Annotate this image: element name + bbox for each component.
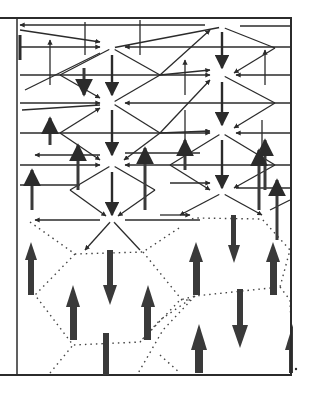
domain-arrow-down [232, 289, 248, 348]
domain-arrow-down [228, 215, 240, 263]
corner-dot [295, 368, 297, 370]
lattice-up-arrows [32, 68, 277, 240]
margin [293, 0, 320, 397]
field-lines [20, 20, 290, 250]
domain-arrows [25, 215, 301, 375]
domain-arrow-up [25, 242, 37, 295]
flux-lattice-diagram [0, 0, 320, 397]
domain-arrow-down [103, 250, 117, 305]
domain-arrow-up [191, 324, 207, 373]
domain-arrow-up [189, 242, 203, 295]
hub-nodes [109, 24, 225, 223]
domain-arrow-up [141, 285, 155, 340]
domain-arrow-up [266, 242, 280, 295]
domain-arrow-up [66, 285, 80, 340]
domain-arrow-stem [103, 333, 109, 375]
